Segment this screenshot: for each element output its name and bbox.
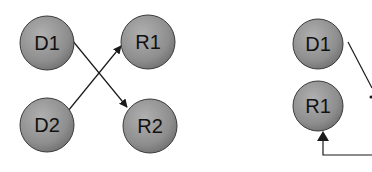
node-r2-label: R2 xyxy=(137,115,163,137)
edge-d1-to-offscreen xyxy=(348,42,372,88)
edge-d1-to-r2 xyxy=(72,40,127,107)
arrowhead-into-r1 xyxy=(317,131,329,141)
edge-d2-to-r1 xyxy=(68,46,121,111)
node-right-d1: D1 xyxy=(293,19,343,69)
node-r2: R2 xyxy=(123,99,177,153)
node-d1: D1 xyxy=(20,16,74,70)
node-d2: D2 xyxy=(20,98,74,152)
right-panel: D1 R1 xyxy=(293,19,372,155)
left-panel: D1 R1 D2 R2 xyxy=(20,15,177,153)
node-r1: R1 xyxy=(121,15,175,69)
diagram: D1 R1 D2 R2 D1 R1 xyxy=(0,0,372,172)
node-right-r1-label: R1 xyxy=(305,95,331,117)
edge-offscreen-to-r1 xyxy=(323,136,372,155)
node-right-d1-label: D1 xyxy=(305,33,331,55)
node-d2-label: D2 xyxy=(34,114,60,136)
node-d1-label: D1 xyxy=(34,32,60,54)
node-r1-label: R1 xyxy=(135,31,161,53)
node-right-r1: R1 xyxy=(293,81,343,131)
